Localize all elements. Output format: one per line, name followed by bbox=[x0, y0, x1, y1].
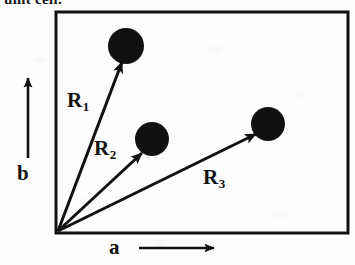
vector-label-R2: R2 bbox=[94, 138, 116, 161]
vector-label-R1: R1 bbox=[67, 90, 89, 113]
atom-3-circle bbox=[251, 107, 285, 141]
figure-root: unit cell. bbox=[0, 0, 355, 265]
atom-2-circle bbox=[135, 122, 169, 156]
vector-R2-arrow bbox=[58, 153, 142, 231]
vector-label-R2-base: R bbox=[94, 136, 109, 160]
axis-label-b: b bbox=[17, 163, 29, 184]
vector-label-R3-subscript: 3 bbox=[219, 176, 226, 191]
vector-label-R1-subscript: 1 bbox=[83, 99, 90, 114]
diagram-canvas bbox=[0, 0, 355, 265]
atom-1-circle bbox=[108, 28, 144, 64]
vector-label-R1-base: R bbox=[67, 88, 82, 112]
vector-label-R3-base: R bbox=[203, 165, 218, 189]
vector-label-R2-subscript: 2 bbox=[110, 147, 117, 162]
vector-label-R3: R3 bbox=[203, 167, 225, 190]
axis-label-a: a bbox=[109, 237, 120, 258]
